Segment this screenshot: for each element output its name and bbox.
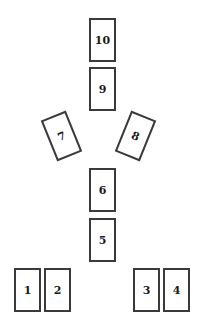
card-8[interactable]: 8 [115,111,157,162]
card-5[interactable]: 5 [89,218,116,262]
card-label: 3 [143,285,151,296]
card-label: 1 [24,285,32,296]
card-2[interactable]: 2 [44,268,71,312]
card-6[interactable]: 6 [89,168,116,212]
card-9[interactable]: 9 [89,67,116,111]
card-label: 4 [173,285,181,296]
card-label: 9 [99,84,107,95]
card-label: 6 [99,185,107,196]
card-label: 5 [99,235,107,246]
card-spread-diagram: 10978651234 [0,0,207,327]
card-1[interactable]: 1 [14,268,41,312]
card-label: 7 [56,129,67,142]
card-10[interactable]: 10 [89,18,116,62]
card-label: 10 [95,35,110,46]
card-4[interactable]: 4 [163,268,190,312]
card-label: 2 [54,285,62,296]
card-7[interactable]: 7 [41,111,83,162]
card-3[interactable]: 3 [133,268,160,312]
card-label: 8 [130,129,141,142]
